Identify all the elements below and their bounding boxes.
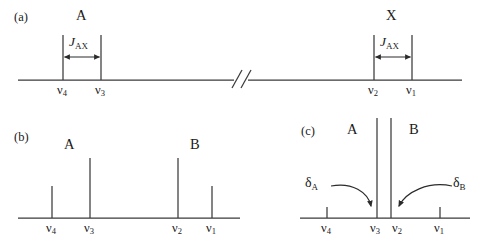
panel-b-tick-label-nu2: ν2 <box>172 222 182 236</box>
panel-c-tick-label-nu1: ν1 <box>434 222 444 236</box>
panel-a-group-label-X: X <box>386 8 396 23</box>
panel-c-shift-label-a: δA <box>305 176 318 192</box>
panel-b-group-label-B: B <box>190 137 200 152</box>
panel-b-spectrum <box>18 158 240 218</box>
panel-c-tick-subscript-nu4: 4 <box>327 226 331 236</box>
panel-c-tick-subscript-nu2: 2 <box>398 226 402 236</box>
panel-b-group-label-A: A <box>64 137 74 152</box>
panel-a-tick-label-nu1: ν1 <box>406 84 416 98</box>
panel-c-shift-arrow-b <box>399 185 452 206</box>
panel-a-tick-subscript-nu2: 2 <box>374 88 378 98</box>
panel-b-tick-label-nu3: ν3 <box>84 222 94 236</box>
panel-a-axis-break-stroke-2 <box>241 70 251 88</box>
panel-b-tag: (b) <box>14 131 29 144</box>
panel-c-shift-label-b: δB <box>453 176 466 192</box>
panel-c-shift-subscript-a: A <box>312 182 319 192</box>
panel-c-group-label-B: B <box>409 122 419 137</box>
panel-a-tick-subscript-nu1: 1 <box>412 88 416 98</box>
panel-a-tick-label-nu3: ν3 <box>95 84 105 98</box>
panel-a-group-label-A: A <box>76 8 86 23</box>
panel-a-coupling-label-right: JAX <box>380 35 399 51</box>
panel-c-tick-label-nu4: ν4 <box>321 222 331 236</box>
panel-b-tick-subscript-nu4: 4 <box>52 226 56 236</box>
panel-c-spectrum <box>300 118 470 218</box>
panel-c-shift-arrow-a <box>331 185 371 206</box>
panel-c-tick-subscript-nu1: 1 <box>440 226 444 236</box>
panel-a-tag: (a) <box>14 11 28 24</box>
panel-a-axis-break-stroke-1 <box>232 70 242 88</box>
panel-a-tick-label-nu4: ν4 <box>57 84 67 98</box>
panel-a-coupling-subscript-left: AX <box>75 41 88 51</box>
panel-c-tick-label-nu3: ν3 <box>370 222 380 236</box>
panel-a-tick-subscript-nu4: 4 <box>63 88 67 98</box>
panel-a-tick-label-nu2: ν2 <box>368 84 378 98</box>
panel-b-tick-subscript-nu3: 3 <box>90 226 94 236</box>
panel-c-shift-symbol-b: δ <box>453 175 460 190</box>
panel-a-tick-subscript-nu3: 3 <box>101 88 105 98</box>
panel-a-coupling-subscript-right: AX <box>386 41 399 51</box>
panel-b-tick-label-nu4: ν4 <box>46 222 56 236</box>
panel-b-tick-subscript-nu1: 1 <box>212 226 216 236</box>
panel-c-group-label-A: A <box>347 122 357 137</box>
figure-root: (a) A X JAX JAX ν4 ν3 ν2 ν1 (b) A B ν4 ν… <box>0 0 480 251</box>
panel-c-tick-label-nu2: ν2 <box>392 222 402 236</box>
panel-a-coupling-label-left: JAX <box>69 35 88 51</box>
panel-b-tick-label-nu1: ν1 <box>206 222 216 236</box>
panel-c-tag: (c) <box>301 125 315 138</box>
panel-c-shift-symbol-a: δ <box>305 175 312 190</box>
panel-b-tick-subscript-nu2: 2 <box>178 226 182 236</box>
panel-c-tick-subscript-nu3: 3 <box>376 226 380 236</box>
panel-c-shift-subscript-b: B <box>460 182 466 192</box>
